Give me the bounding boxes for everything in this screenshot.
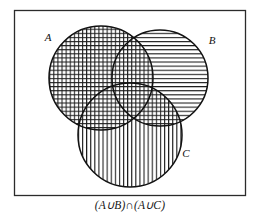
set-label-b: B	[209, 34, 216, 46]
set-label-c: C	[182, 147, 190, 159]
venn-diagram-canvas: A B C	[0, 0, 260, 219]
figure-caption: (A∪B)∩(A∪C)	[0, 198, 260, 212]
set-label-a: A	[44, 31, 52, 43]
venn-diagram-figure: A B C (A∪B)∩(A∪C)	[0, 0, 260, 219]
